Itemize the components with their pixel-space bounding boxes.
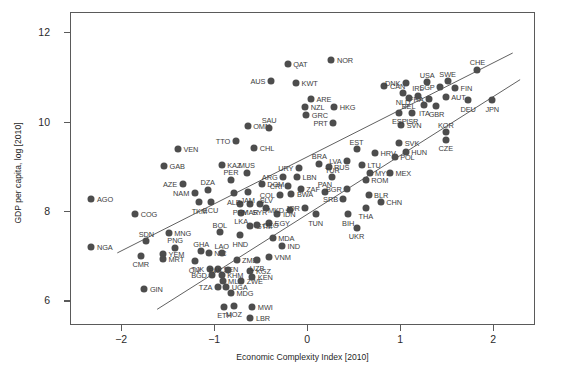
data-point[interactable] [205, 250, 212, 257]
data-point[interactable] [353, 146, 360, 153]
data-point[interactable] [372, 149, 379, 156]
data-point[interactable] [284, 183, 291, 190]
data-point[interactable] [442, 136, 449, 143]
data-point[interactable] [433, 102, 440, 109]
plot-frame: AGONGACOGSDNCMRGINYEMMRTMNGPNGGABVENAZEN… [70, 12, 535, 325]
data-point[interactable] [266, 253, 273, 260]
data-point[interactable] [302, 103, 309, 110]
data-point[interactable] [414, 92, 421, 99]
data-point[interactable] [362, 204, 369, 211]
data-point[interactable] [362, 176, 369, 183]
data-point[interactable] [254, 222, 261, 229]
data-point[interactable] [244, 188, 251, 195]
data-point[interactable] [377, 199, 384, 206]
data-point[interactable] [359, 162, 366, 169]
data-point[interactable] [489, 97, 496, 104]
data-point[interactable] [328, 56, 335, 63]
data-point[interactable] [284, 60, 291, 67]
data-point[interactable] [218, 250, 225, 257]
data-point[interactable] [258, 181, 265, 188]
data-point[interactable] [474, 66, 481, 73]
data-point[interactable] [196, 199, 203, 206]
y-tick-label: 6 [44, 294, 50, 306]
data-point[interactable] [452, 84, 459, 91]
data-point[interactable] [132, 211, 139, 218]
data-point[interactable] [280, 174, 287, 181]
data-point[interactable] [402, 148, 409, 155]
data-point[interactable] [330, 120, 337, 127]
point-label: SGP [419, 82, 434, 91]
data-point[interactable] [230, 190, 237, 197]
data-point[interactable] [191, 258, 198, 265]
plot-area: AGONGACOGSDNCMRGINYEMMRTMNGPNGGABVENAZEN… [71, 13, 534, 324]
data-point[interactable] [225, 267, 232, 274]
data-point[interactable] [391, 154, 398, 161]
data-point[interactable] [137, 252, 144, 259]
data-point[interactable] [277, 191, 284, 198]
data-point[interactable] [465, 97, 472, 104]
data-point[interactable] [288, 191, 295, 198]
data-point[interactable] [303, 111, 310, 118]
y-tick [64, 32, 70, 33]
data-point[interactable] [88, 243, 95, 250]
data-point[interactable] [161, 163, 168, 170]
data-point[interactable] [214, 283, 221, 290]
data-point[interactable] [386, 169, 393, 176]
data-point[interactable] [237, 232, 244, 239]
data-point[interactable] [295, 165, 302, 172]
data-point[interactable] [266, 124, 273, 131]
data-point[interactable] [442, 129, 449, 136]
data-point[interactable] [160, 255, 167, 262]
data-point[interactable] [249, 273, 256, 280]
data-point[interactable] [340, 196, 347, 203]
data-point[interactable] [179, 181, 186, 188]
data-point[interactable] [247, 315, 254, 322]
data-point[interactable] [216, 229, 223, 236]
data-point[interactable] [174, 146, 181, 153]
data-point[interactable] [426, 96, 433, 103]
data-point[interactable] [254, 256, 261, 263]
data-point[interactable] [233, 257, 240, 264]
data-point[interactable] [400, 90, 407, 97]
data-point[interactable] [249, 303, 256, 310]
data-point[interactable] [227, 290, 234, 297]
data-point[interactable] [141, 285, 148, 292]
data-point[interactable] [353, 224, 360, 231]
data-point[interactable] [437, 83, 444, 90]
data-point[interactable] [230, 302, 237, 309]
data-point[interactable] [172, 244, 179, 251]
data-point[interactable] [402, 80, 409, 87]
data-point[interactable] [227, 176, 234, 183]
data-point[interactable] [279, 242, 286, 249]
data-point[interactable] [365, 191, 372, 198]
data-point[interactable] [221, 303, 228, 310]
data-point[interactable] [238, 278, 245, 285]
data-point[interactable] [191, 190, 198, 197]
data-point[interactable] [218, 162, 225, 169]
data-point[interactable] [143, 238, 150, 245]
data-point[interactable] [244, 123, 251, 130]
data-point[interactable] [444, 78, 451, 85]
data-point[interactable] [344, 185, 351, 192]
data-point[interactable] [345, 211, 352, 218]
data-point[interactable] [293, 174, 300, 181]
data-point[interactable] [293, 80, 300, 87]
data-point[interactable] [331, 103, 338, 110]
data-point[interactable] [198, 248, 205, 255]
data-point[interactable] [316, 160, 323, 167]
data-point[interactable] [267, 78, 274, 85]
data-point[interactable] [312, 211, 319, 218]
data-point[interactable] [396, 139, 403, 146]
data-point[interactable] [88, 196, 95, 203]
data-point[interactable] [207, 198, 214, 205]
data-point[interactable] [232, 138, 239, 145]
data-point[interactable] [442, 93, 449, 100]
data-point[interactable] [204, 186, 211, 193]
data-point[interactable] [251, 145, 258, 152]
data-point[interactable] [302, 205, 309, 212]
data-point[interactable] [243, 169, 250, 176]
data-point[interactable] [269, 234, 276, 241]
data-point[interactable] [297, 185, 304, 192]
data-point[interactable] [366, 169, 373, 176]
data-point[interactable] [344, 158, 351, 165]
